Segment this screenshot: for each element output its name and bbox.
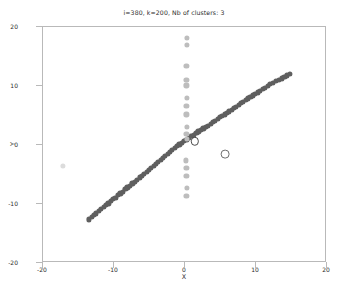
data-point — [185, 185, 190, 190]
x-tick-mark — [184, 262, 185, 268]
y-tick-label: -10 — [0, 200, 18, 207]
data-point — [184, 174, 189, 179]
plot-frame — [42, 26, 326, 262]
data-point — [184, 112, 189, 117]
y-tick-mark — [36, 203, 42, 204]
x-tick-mark — [255, 262, 256, 268]
data-point — [185, 35, 190, 40]
data-point — [184, 83, 189, 88]
x-axis-label: X — [182, 273, 186, 281]
x-tick-mark — [113, 262, 114, 268]
data-point — [60, 164, 65, 169]
data-point — [185, 43, 190, 48]
centroid-2-marker — [220, 149, 229, 158]
scatter-plot-figure: i=380, k=200, Nb of clusters: 3 Y X -20-… — [0, 0, 348, 297]
y-tick-mark — [36, 144, 42, 145]
x-tick-mark — [326, 262, 327, 268]
data-point — [287, 71, 292, 76]
data-point — [184, 193, 189, 198]
y-tick-label: -20 — [0, 259, 18, 266]
x-tick-mark — [42, 262, 43, 268]
y-tick-label: 20 — [0, 23, 18, 30]
data-point — [184, 63, 189, 68]
y-tick-mark — [36, 85, 42, 86]
data-point — [184, 165, 189, 170]
data-point — [184, 103, 189, 108]
data-point — [185, 137, 190, 142]
plot-area — [43, 27, 325, 261]
y-tick-label: 0 — [0, 141, 18, 148]
data-point — [185, 95, 190, 100]
data-point — [184, 77, 189, 82]
data-point — [183, 158, 188, 163]
y-tick-mark — [36, 26, 42, 27]
data-point — [185, 125, 190, 130]
chart-title: i=380, k=200, Nb of clusters: 3 — [0, 9, 348, 16]
centroid-1-marker — [191, 137, 199, 145]
y-tick-label: 10 — [0, 82, 18, 89]
